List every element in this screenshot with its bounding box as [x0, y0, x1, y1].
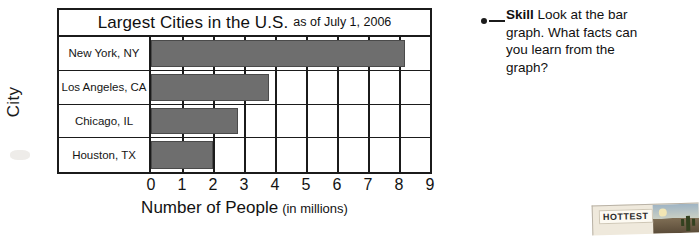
x-tick-label: 7: [364, 176, 373, 194]
skill-text: Skill Look at the bar graph. What facts …: [506, 6, 640, 76]
row-plot: [151, 138, 430, 172]
desert-photo-icon: [653, 204, 699, 234]
photo-scrap: HOTTEST: [592, 203, 699, 236]
x-axis-title-units: (in millions): [282, 201, 348, 216]
row-plot: [151, 105, 430, 138]
bar-los-angeles: [151, 74, 269, 101]
row-plot: [151, 71, 430, 104]
callout-leader-line: [481, 17, 505, 25]
table-row: Chicago, IL: [59, 105, 430, 139]
x-tick-label: 2: [209, 176, 218, 194]
x-axis-ticks: 0123456789: [57, 176, 432, 196]
leader-dash-icon: [489, 20, 505, 22]
x-axis-title: Number of People(in millions): [57, 198, 432, 218]
chart-frame: Largest Cities in the U.S. as of July 1,…: [57, 8, 432, 174]
bar-chart: City Largest Cities in the U.S. as of Ju…: [0, 0, 500, 233]
category-label: Houston, TX: [59, 138, 151, 172]
photo-caption: HOTTEST: [599, 209, 653, 224]
x-axis-title-main: Number of People: [141, 198, 278, 217]
bar-new-york: [151, 40, 405, 67]
x-tick-label: 8: [395, 176, 404, 194]
category-label: Chicago, IL: [59, 105, 151, 138]
table-row: Houston, TX: [59, 138, 430, 172]
x-tick-label: 3: [240, 176, 249, 194]
category-label: Los Angeles, CA: [59, 71, 151, 104]
plot-area: New York, NY Los Angeles, CA Chicago, IL: [59, 37, 430, 172]
x-tick-label: 4: [271, 176, 280, 194]
y-axis-title-label: City: [4, 87, 24, 117]
x-tick-label: 9: [426, 176, 435, 194]
row-plot: [151, 37, 430, 70]
skill-label: Skill: [506, 7, 534, 22]
skill-callout: Skill Look at the bar graph. What facts …: [506, 6, 640, 76]
table-row: Los Angeles, CA: [59, 71, 430, 105]
chart-title: Largest Cities in the U.S. as of July 1,…: [59, 10, 430, 37]
bar-chicago: [151, 108, 238, 135]
cactus-icon: [686, 216, 690, 231]
bar-houston: [151, 141, 213, 169]
x-tick-label: 6: [333, 176, 342, 194]
chart-title-main: Largest Cities in the U.S.: [98, 13, 289, 33]
table-row: New York, NY: [59, 37, 430, 71]
category-label: New York, NY: [59, 37, 151, 70]
x-tick-label: 1: [178, 176, 187, 194]
x-tick-label: 0: [147, 176, 156, 194]
x-tick-label: 5: [302, 176, 311, 194]
bullet-dot-icon: [481, 18, 487, 24]
y-axis-title: City: [2, 52, 26, 152]
chart-title-date: as of July 1, 2006: [293, 15, 391, 30]
sun-icon: [659, 208, 667, 216]
